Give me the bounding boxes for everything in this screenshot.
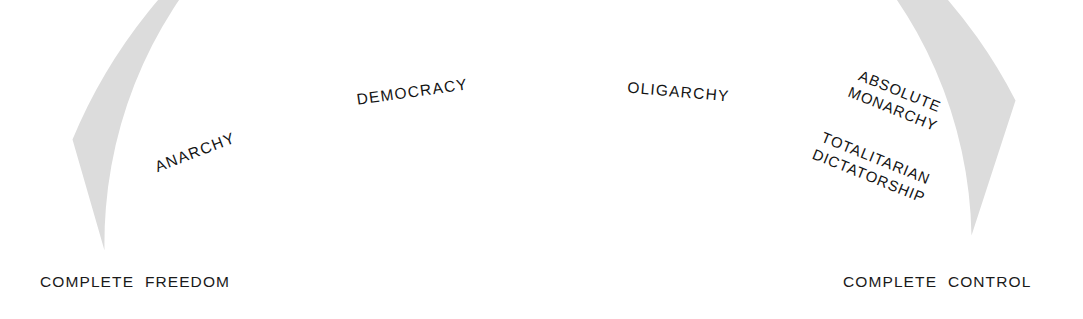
segment-label-group: ANARCHY DEMOCRACY OLIGARCHY ABSOLUTE MON… [153, 65, 948, 206]
divider-anarchy-democracy [288, 46, 326, 177]
segment-label-oligarchy: OLIGARCHY [627, 79, 731, 105]
band-shape [73, 0, 1016, 251]
arc-spectrum-diagram: ANARCHY DEMOCRACY OLIGARCHY ABSOLUTE MON… [0, 0, 1083, 319]
divider-oligarchy-monarchy [768, 44, 803, 183]
arc-band [73, 0, 1016, 251]
segment-label-democracy: DEMOCRACY [356, 75, 469, 107]
diagram-canvas: ANARCHY DEMOCRACY OLIGARCHY ABSOLUTE MON… [0, 0, 1083, 319]
segment-label-absolute-monarchy: ABSOLUTE MONARCHY [846, 65, 947, 134]
segment-label-anarchy: ANARCHY [153, 129, 238, 175]
endpoint-label-right: COMPLETE CONTROL [843, 274, 1031, 290]
segment-label-totalitarian-dictatorship: TOTALITARIAN DICTATORSHIP [810, 128, 935, 206]
endpoint-label-left: COMPLETE FREEDOM [40, 274, 230, 290]
